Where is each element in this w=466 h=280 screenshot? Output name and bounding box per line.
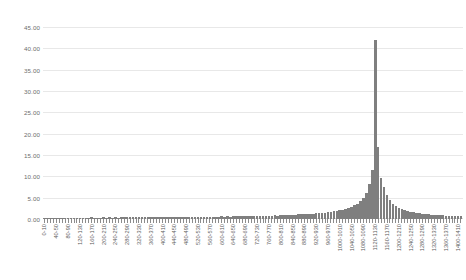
y-axis-tick-label: 15.00 — [0, 152, 40, 159]
y-axis-tick-label: 35.00 — [0, 66, 40, 73]
x-axis-tick — [459, 219, 462, 223]
x-axis: 0-1040-5080-90120-130160-170200-210240-2… — [43, 219, 463, 280]
y-axis-tick-label: 20.00 — [0, 130, 40, 137]
bar-series — [43, 27, 463, 219]
y-axis-tick-label: 10.00 — [0, 173, 40, 180]
x-axis-ticks — [43, 219, 463, 223]
x-axis-labels: 0-1040-5080-90120-130160-170200-210240-2… — [43, 224, 463, 280]
y-axis-tick-label: 40.00 — [0, 45, 40, 52]
y-axis: 45.0040.0035.0030.0025.0020.0015.0010.00… — [0, 27, 40, 219]
x-axis-label-slot — [459, 224, 462, 280]
y-axis-tick-label: 5.00 — [0, 194, 40, 201]
y-axis-tick-label: 30.00 — [0, 88, 40, 95]
y-axis-tick-label: 25.00 — [0, 109, 40, 116]
y-axis-tick-label: 0.00 — [0, 216, 40, 223]
y-axis-tick-label: 45.00 — [0, 24, 40, 31]
plot-area — [43, 27, 463, 219]
histogram-chart: 45.0040.0035.0030.0025.0020.0015.0010.00… — [0, 0, 466, 280]
